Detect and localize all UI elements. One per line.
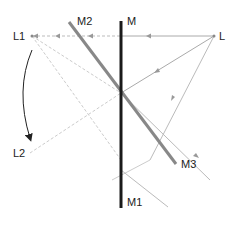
arrow-head-icon	[154, 68, 160, 73]
label-m1: M1	[127, 196, 142, 208]
arrow-head-icon	[88, 34, 93, 39]
label-l: L	[219, 30, 225, 42]
label-l1: L1	[13, 30, 25, 42]
virtual-ray-l1-to-reflect	[32, 36, 121, 93]
ray-l-lower-continue	[112, 160, 150, 180]
virtual-ray-l1-lower	[32, 36, 121, 160]
label-m3: M3	[181, 158, 196, 170]
arrow-head-icon	[171, 95, 175, 101]
label-m: M	[127, 15, 136, 27]
arrow-head-icon	[55, 34, 60, 39]
ray-l-to-reflect	[121, 36, 214, 93]
label-l2: L2	[13, 147, 25, 159]
label-m2: M2	[77, 15, 92, 27]
point-l1	[31, 35, 34, 38]
mirror-rotation-diagram: L L1 L2 M M1 M2 M3	[0, 0, 248, 229]
reflected-ray-1	[121, 93, 210, 180]
rotation-arc	[23, 50, 32, 138]
point-l	[213, 35, 216, 38]
virtual-ray-l2	[30, 93, 121, 153]
arrow-head-icon	[146, 34, 151, 39]
